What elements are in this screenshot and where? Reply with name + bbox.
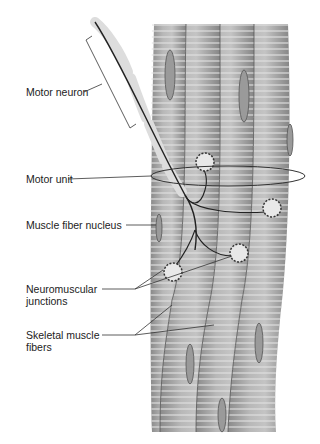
label-skeletal-muscle-fibers: Skeletal muscle fibers — [26, 329, 100, 353]
nucleus — [186, 344, 194, 384]
nucleus — [156, 214, 162, 242]
label-neuromuscular-junctions: Neuromuscular junctions — [26, 283, 97, 307]
nucleus — [287, 124, 293, 156]
junction — [230, 244, 248, 262]
nucleus — [218, 398, 226, 432]
label-motor-unit: Motor unit — [26, 173, 73, 185]
label-muscle-fiber-nucleus: Muscle fiber nucleus — [26, 219, 122, 231]
nucleus — [165, 50, 175, 100]
label-motor-neuron: Motor neuron — [26, 86, 88, 98]
nucleus — [239, 70, 249, 122]
junction — [263, 199, 281, 217]
myelin-sheath — [131, 78, 146, 118]
nucleus — [255, 323, 263, 363]
junction — [196, 153, 214, 171]
